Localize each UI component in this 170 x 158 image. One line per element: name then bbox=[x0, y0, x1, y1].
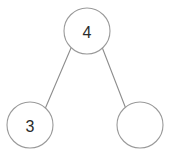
edge-root-to-right-child bbox=[102, 47, 126, 109]
node-root[interactable]: 4 bbox=[64, 8, 110, 54]
tree-canvas: 4 3 bbox=[0, 0, 170, 158]
node-right-child-circle[interactable] bbox=[117, 102, 163, 148]
binary-tree-figure: 4 3 bbox=[0, 0, 170, 158]
node-root-label: 4 bbox=[83, 24, 92, 41]
edge-root-to-left-child bbox=[45, 48, 71, 109]
node-left-child[interactable]: 3 bbox=[7, 102, 53, 148]
edge-group bbox=[45, 47, 126, 109]
node-left-child-label: 3 bbox=[26, 118, 35, 135]
node-right-child[interactable] bbox=[117, 102, 163, 148]
